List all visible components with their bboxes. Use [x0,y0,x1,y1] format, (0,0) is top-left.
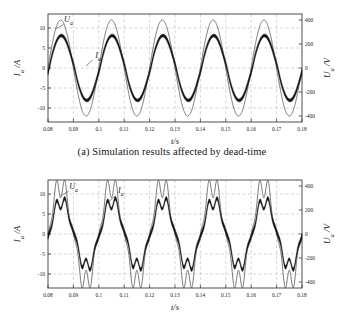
xtick-label: 0.1 [95,292,102,298]
figure-container: 0.080.090.10.110.120.130.140.150.160.170… [0,0,344,332]
ytick-label: 0 [42,65,45,71]
y2tick-label: 400 [305,183,313,189]
xtick-label: 0.15 [221,292,231,298]
xtick-label: 0.08 [43,292,53,298]
y2tick-label: -400 [305,113,315,119]
xtick-label: 0.11 [120,126,130,132]
xtick-label: 0.12 [145,292,155,298]
leader-line-ia [86,60,93,66]
xtick-label: 0.17 [272,126,282,132]
y2tick-label: -200 [305,89,315,95]
y2tick-label: -400 [305,279,315,285]
xtick-label: 0.18 [297,292,307,298]
ytick-label: -10 [38,105,46,111]
y-axis-label: Ia /A [12,59,25,77]
xtick-label: 0.09 [69,126,79,132]
xtick-label: 0.08 [43,126,53,132]
ytick-label: -5 [40,251,45,257]
xtick-label: 0.14 [196,126,206,132]
xtick-label: 0.09 [69,292,79,298]
xtick-label: 0.16 [246,292,256,298]
xtick-label: 0.13 [170,126,180,132]
ytick-label: 5 [42,211,45,217]
y2tick-label: 0 [305,65,308,71]
xtick-label: 0.17 [272,292,282,298]
panel-a: 0.080.090.10.110.120.130.140.150.160.170… [0,0,344,166]
x-axis-label: t/s [171,136,180,146]
panel-b: 0.080.090.10.110.120.130.140.150.160.170… [0,166,344,332]
y2tick-label: 200 [305,207,313,213]
xtick-label: 0.16 [246,126,256,132]
ytick-label: -10 [38,271,46,277]
y2tick-label: 200 [305,41,313,47]
ytick-label: 5 [42,45,45,51]
y2tick-label: -200 [305,255,315,261]
y2tick-label: 400 [305,17,313,23]
y2-axis-label: Ua /V [322,223,335,244]
plot-a: 0.080.090.10.110.120.130.140.150.160.170… [0,0,344,140]
ytick-label: 0 [42,231,45,237]
chart-a-svg: 0.080.090.10.110.120.130.140.150.160.170… [0,0,344,146]
ytick-label: -5 [40,85,45,91]
xtick-label: 0.18 [297,126,307,132]
y2-axis-label: Ua /V [322,57,335,78]
xtick-label: 0.13 [170,292,180,298]
annotation-ia: Ia [94,51,101,62]
y-axis-label: Ia /A [12,225,25,243]
xtick-label: 0.14 [196,292,206,298]
chart-b-svg: 0.080.090.10.110.120.130.140.150.160.170… [0,166,344,312]
xtick-label: 0.12 [145,126,155,132]
ytick-label: 10 [39,191,45,197]
ytick-label: 10 [39,25,45,31]
xtick-label: 0.11 [120,292,130,298]
x-axis-label: t/s [171,302,180,312]
xtick-label: 0.1 [95,126,102,132]
xtick-label: 0.15 [221,126,231,132]
y2tick-label: 0 [305,231,308,237]
caption-a: (a) Simulation results affected by dead-… [0,146,344,157]
plot-b: 0.080.090.10.110.120.130.140.150.160.170… [0,166,344,306]
annotation-ua: Ua [64,15,73,26]
